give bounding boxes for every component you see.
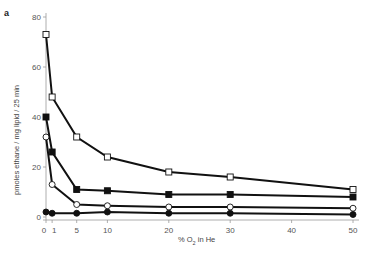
y-tick-label: 20 [32, 163, 41, 172]
y-tick-label: 40 [32, 113, 41, 122]
x-tick-label: 40 [287, 226, 296, 235]
x-tick-label: 50 [349, 226, 358, 235]
open-square-marker [166, 169, 172, 175]
filled-circle-marker [227, 210, 233, 216]
open-square-line [46, 35, 353, 190]
open-circle-marker [350, 205, 356, 211]
x-tick-label: 20 [164, 226, 173, 235]
open-square-marker [74, 134, 80, 140]
y-tick-label: 80 [32, 13, 41, 22]
line-chart: 0204060800151020304050 [0, 0, 375, 255]
filled-square-marker [227, 192, 233, 198]
x-tick-label: 0 [42, 226, 47, 235]
filled-square-marker [49, 149, 55, 155]
open-circle-marker [166, 204, 172, 210]
open-circle-marker [49, 182, 55, 188]
x-tick-label: 1 [52, 226, 57, 235]
filled-circle-marker [43, 209, 49, 215]
y-tick-label: 60 [32, 63, 41, 72]
open-square-marker [104, 154, 110, 160]
filled-circle-line [46, 212, 353, 215]
filled-circle-marker [74, 210, 80, 216]
filled-circle-marker [350, 212, 356, 218]
y-tick-label: 0 [37, 213, 42, 222]
filled-square-marker [104, 188, 110, 194]
filled-circle-marker [104, 209, 110, 215]
filled-square-marker [43, 114, 49, 120]
x-tick-label: 30 [226, 226, 235, 235]
series-lines [46, 35, 353, 215]
open-circle-marker [43, 134, 49, 140]
open-circle-marker [74, 202, 80, 208]
open-square-marker [49, 94, 55, 100]
open-square-marker [43, 32, 49, 38]
axes: 0204060800151020304050 [32, 13, 359, 235]
open-circle-marker [104, 203, 110, 209]
filled-circle-marker [166, 210, 172, 216]
x-tick-label: 5 [74, 226, 79, 235]
open-square-marker [227, 174, 233, 180]
filled-square-marker [350, 194, 356, 200]
filled-square-marker [74, 187, 80, 193]
filled-square-marker [166, 192, 172, 198]
open-square-marker [350, 187, 356, 193]
x-tick-label: 10 [103, 226, 112, 235]
filled-circle-marker [49, 210, 55, 216]
open-circle-marker [227, 204, 233, 210]
